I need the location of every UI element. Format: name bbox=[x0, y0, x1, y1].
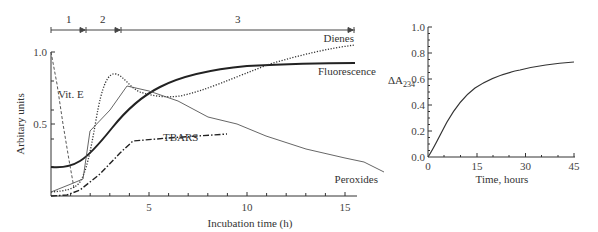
series-delta-a234 bbox=[428, 62, 574, 157]
left-chart: 1 2 3 bbox=[14, 13, 384, 230]
right-x-tick-45: 45 bbox=[569, 160, 581, 172]
series-fluorescence bbox=[51, 63, 355, 167]
phase-3-label: 3 bbox=[235, 13, 241, 25]
right-y-tick-0-0: 0.0 bbox=[411, 151, 425, 163]
right-axes bbox=[428, 27, 575, 157]
right-y-tick-0-4: 0.4 bbox=[411, 99, 425, 111]
label-vit-e: Vit. E bbox=[58, 88, 84, 100]
right-x-tick-0: 0 bbox=[425, 160, 431, 172]
right-chart: 1.0 0.8 0.6 0.4 0.2 0.0 0 15 30 45 Time,… bbox=[388, 21, 580, 185]
right-y-tick-0-8: 0.8 bbox=[411, 47, 425, 59]
series-tbars bbox=[51, 134, 227, 196]
label-dienes: Dienes bbox=[323, 32, 354, 44]
x-tick-15: 15 bbox=[340, 201, 352, 213]
series-dienes bbox=[51, 45, 355, 192]
phase-1-label: 1 bbox=[66, 13, 72, 25]
label-fluorescence: Fluorescence bbox=[318, 65, 376, 77]
phase-2-label: 2 bbox=[100, 13, 106, 25]
label-tbars: TBARS bbox=[163, 131, 198, 143]
y-tick-1-0: 1.0 bbox=[33, 46, 47, 58]
figure: 1 2 3 bbox=[0, 0, 598, 232]
left-y-axis-title: Arbitary units bbox=[14, 93, 26, 154]
right-y-tick-0-2: 0.2 bbox=[411, 125, 425, 137]
right-x-tick-30: 30 bbox=[520, 160, 532, 172]
label-peroxides: Peroxides bbox=[335, 173, 378, 185]
x-tick-10: 10 bbox=[242, 201, 254, 213]
right-y-tick-1-0: 1.0 bbox=[411, 21, 425, 33]
phase-bar bbox=[51, 27, 355, 33]
y-tick-0-5: 0.5 bbox=[33, 118, 47, 130]
right-x-axis-title: Time, hours bbox=[476, 173, 529, 185]
x-tick-5: 5 bbox=[146, 201, 152, 213]
right-x-tick-15: 15 bbox=[472, 160, 484, 172]
left-x-axis-title: Incubation time (h) bbox=[208, 217, 293, 230]
